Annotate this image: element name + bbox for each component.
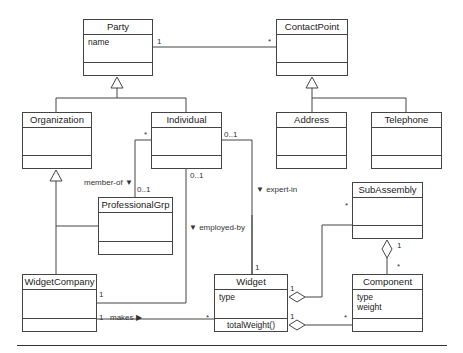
- class-attributes: [23, 128, 91, 156]
- mult-employed-by-to: 1: [99, 290, 103, 299]
- mult-widget-subassembly-part: *: [345, 201, 348, 210]
- attribute: type: [219, 292, 287, 302]
- class-name: WidgetCompany: [23, 275, 96, 290]
- mult-member-of-from: *: [144, 130, 147, 139]
- mult-subassembly-component-whole: 1: [397, 241, 401, 250]
- class-attributes: [277, 128, 346, 156]
- mult-expert-in-from: 0..1: [224, 130, 237, 139]
- class-party[interactable]: Party name: [83, 19, 153, 76]
- class-name: Address: [277, 113, 346, 128]
- class-name: Party: [84, 20, 152, 35]
- class-professional-grp[interactable]: ProfessionalGrp: [98, 197, 173, 255]
- class-organization[interactable]: Organization: [22, 112, 92, 169]
- class-attributes: [277, 35, 347, 63]
- mult-makes-from: 1: [99, 313, 103, 322]
- class-operation: totalWeight(): [215, 319, 287, 332]
- class-sub-assembly[interactable]: SubAssembly: [352, 182, 423, 239]
- class-name: ProfessionalGrp: [99, 198, 172, 213]
- class-attributes: type: [215, 290, 287, 319]
- label-member-of: member-of ▼: [84, 178, 133, 187]
- class-name: Component: [353, 275, 422, 290]
- class-name: Individual: [152, 113, 221, 128]
- mult-widget-component-whole: 1: [290, 312, 294, 321]
- class-name: Telephone: [372, 113, 441, 128]
- mult-expert-in-to: 1: [255, 263, 259, 272]
- class-component[interactable]: Component type weight: [352, 274, 423, 332]
- attribute: type: [357, 292, 422, 302]
- class-attributes: [99, 213, 172, 242]
- label-employed-by: ▼ employed-by: [189, 223, 245, 232]
- class-attributes: name: [84, 35, 152, 63]
- mult-employed-by-from: 0..1: [190, 171, 203, 180]
- attribute: weight: [357, 302, 422, 312]
- bottom-divider: [17, 345, 447, 346]
- class-telephone[interactable]: Telephone: [371, 112, 442, 169]
- mult-subassembly-component-part: *: [397, 262, 400, 271]
- class-attributes: [152, 128, 221, 156]
- class-individual[interactable]: Individual: [151, 112, 222, 169]
- class-widget[interactable]: Widget type totalWeight(): [214, 274, 288, 332]
- mult-member-of-to: 0..1: [137, 185, 150, 194]
- mult-party-contact-to: *: [268, 37, 271, 46]
- class-widget-company[interactable]: WidgetCompany: [22, 274, 97, 332]
- attribute: name: [88, 37, 152, 47]
- class-name: Widget: [215, 275, 287, 290]
- class-name: SubAssembly: [353, 183, 422, 198]
- class-name: ContactPoint: [277, 20, 347, 35]
- label-makes: makes ▶: [110, 313, 142, 322]
- class-address[interactable]: Address: [276, 112, 347, 169]
- class-attributes: [23, 290, 96, 319]
- class-attributes: type weight: [353, 290, 422, 319]
- class-name: Organization: [23, 113, 91, 128]
- mult-widget-component-part: *: [344, 313, 347, 322]
- class-attributes: [372, 128, 441, 156]
- mult-makes-to: *: [206, 313, 209, 322]
- mult-party-contact-from: 1: [157, 37, 161, 46]
- mult-widget-subassembly-whole: 1: [290, 284, 294, 293]
- class-attributes: [353, 198, 422, 226]
- class-contact-point[interactable]: ContactPoint: [276, 19, 348, 76]
- label-expert-in: ▼ expert-in: [256, 185, 297, 194]
